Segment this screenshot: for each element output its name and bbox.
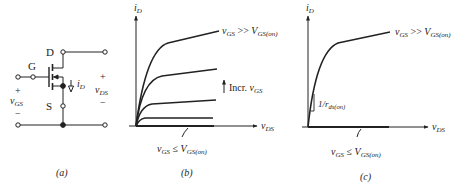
gate-label: G <box>28 60 36 72</box>
c-slope-label: 1/rds(on) <box>318 99 345 111</box>
vds-minus-terminal <box>103 123 107 127</box>
id-arrow-icon <box>69 86 74 92</box>
source-label: S <box>46 100 52 112</box>
vds-label: vDS <box>95 84 109 97</box>
b-cutoff-pointer <box>182 128 188 137</box>
gate-input-terminal <box>16 75 20 79</box>
b-y-axis-label: iD <box>134 2 142 15</box>
c-y-axis-label: iD <box>306 2 314 15</box>
b-increase-label: Incr. vGS <box>229 82 263 95</box>
id-label: iD <box>77 78 85 91</box>
vgs-minus-sign: − <box>15 108 21 119</box>
caption-b: (b) <box>181 167 193 179</box>
vds-minus-sign: − <box>100 97 106 108</box>
c-top-curve-label: vGS >> VGS(on) <box>395 26 451 39</box>
b-curve-2 <box>136 100 216 126</box>
b-cutoff-label: vGS ≤ VGS(on) <box>157 143 208 156</box>
vgs-plus-sign: + <box>15 85 21 96</box>
c-x-axis-label: vDS <box>432 121 446 134</box>
caption-a: (a) <box>56 167 68 179</box>
b-curve-top <box>136 31 219 126</box>
c-curve-on <box>308 32 390 127</box>
figure-canvas: D G S iD + vGS − + vDS − (a) iD vDS vGS … <box>0 0 468 193</box>
panel-a-labels: D G S iD + vGS − + vDS − (a) <box>10 46 109 179</box>
gate-terminal <box>31 75 35 79</box>
c-cutoff-pointer <box>357 129 361 137</box>
vgs-minus-terminal <box>16 123 20 127</box>
vds-plus-sign: + <box>100 71 106 82</box>
source-terminal <box>61 104 65 108</box>
b-top-curve-label: vGS >> VGS(on) <box>222 25 278 38</box>
drain-terminal <box>61 50 65 54</box>
panel-c-labels: iD vDS vGS >> VGS(on) 1/rds(on) vGS ≤ VG… <box>306 2 451 183</box>
b-curve-1 <box>136 118 213 126</box>
caption-c: (c) <box>360 171 372 183</box>
panel-b-labels: iD vDS vGS >> VGS(on) Incr. vGS vGS ≤ VG… <box>134 2 278 179</box>
drain-label: D <box>46 46 54 58</box>
vds-plus-terminal <box>103 50 107 54</box>
body-arrow-icon <box>54 75 58 79</box>
c-cutoff-label: vGS ≤ VGS(on) <box>331 146 382 159</box>
ground-junction-dot <box>61 123 66 128</box>
vgs-label: vGS <box>10 95 24 108</box>
b-x-axis-label: vDS <box>261 120 275 133</box>
